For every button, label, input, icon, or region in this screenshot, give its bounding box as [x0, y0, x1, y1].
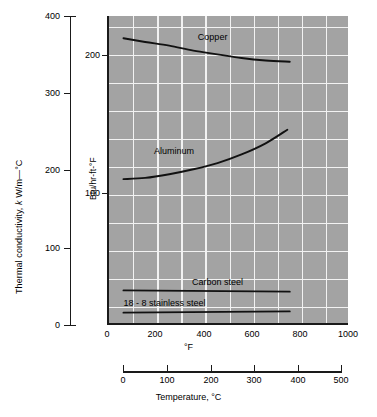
si-tick-label-400: 400 — [32, 11, 60, 21]
si-axis-title-symbol: k — [14, 200, 24, 205]
si-axis-title-suffix: W/m—°C — [14, 160, 24, 201]
series-label-copper: Copper — [198, 32, 228, 42]
si-axis-line — [70, 16, 71, 325]
f-tick-label-200: 200 — [143, 329, 167, 339]
si-axis-title-prefix: Thermal conductivity, — [14, 205, 24, 294]
si-axis-cap-bottom — [70, 325, 76, 326]
c-tick-300 — [254, 365, 255, 371]
f-tick-label-800: 800 — [288, 329, 312, 339]
c-tick-400 — [298, 365, 299, 371]
c-tick-label-200: 200 — [199, 375, 223, 385]
si-axis-cap-top — [70, 16, 76, 17]
si-tick-label-100: 100 — [32, 243, 60, 253]
si-tick-200 — [64, 170, 70, 171]
series-label-carbon-steel: Carbon steel — [192, 277, 243, 287]
f-tick-label-400: 400 — [192, 329, 216, 339]
celsius-axis-title: Temperature, °C — [0, 392, 377, 402]
series-line-aluminum — [123, 130, 287, 179]
si-tick-label-200: 200 — [32, 165, 60, 175]
celsius-axis-line — [123, 371, 342, 373]
f-axis-title: °F — [0, 342, 377, 352]
si-tick-300 — [64, 93, 70, 94]
si-tick-100 — [64, 248, 70, 249]
si-tick-400 — [64, 16, 70, 17]
btu-tick-label-200: 200 — [73, 50, 100, 60]
si-tick-label-300: 300 — [32, 88, 60, 98]
f-tick-label-600: 600 — [240, 329, 264, 339]
f-tick-label-0: 0 — [95, 329, 119, 339]
c-tick-200 — [211, 365, 212, 371]
si-axis-title: Thermal conductivity, k W/m—°C — [14, 160, 24, 294]
c-tick-label-300: 300 — [242, 375, 266, 385]
c-tick-100 — [167, 365, 168, 371]
c-tick-0 — [123, 365, 124, 371]
c-tick-label-500: 500 — [329, 375, 353, 385]
series-label-stainless-steel: 18 - 8 stainless steel — [123, 298, 205, 308]
btu-tick-label-100: 100 — [73, 188, 100, 198]
c-tick-500 — [341, 365, 342, 371]
si-tick-label-0: 0 — [32, 320, 60, 330]
si-tick-0 — [64, 325, 70, 326]
series-line-carbon-steel — [123, 290, 289, 291]
c-tick-label-400: 400 — [286, 375, 310, 385]
thermal-conductivity-chart: Thermal conductivity, k W/m—°C 400 300 2… — [0, 0, 377, 417]
c-tick-label-100: 100 — [155, 375, 179, 385]
plot-area: Copper Aluminum Carbon steel 18 - 8 stai… — [107, 16, 348, 325]
c-tick-label-0: 0 — [111, 375, 135, 385]
series-label-aluminum: Aluminum — [154, 146, 194, 156]
series-line-stainless-steel — [123, 311, 289, 312]
f-tick-label-1000: 1000 — [334, 329, 362, 339]
